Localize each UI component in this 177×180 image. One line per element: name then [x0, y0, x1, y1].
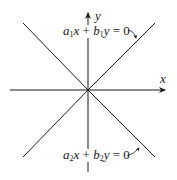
line-2-label: a2x + b2y = 0	[63, 147, 130, 163]
x-axis-label: x	[159, 71, 166, 86]
line-1-label: a1x + b1y = 0	[63, 23, 130, 39]
y-axis-label: y	[93, 8, 101, 23]
intersecting-lines-diagram: y x a1x + b1y = 0 a2x + b2y = 0	[0, 0, 177, 180]
